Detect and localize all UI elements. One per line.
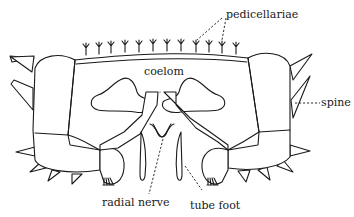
pedicellariae-label: pedicellariae (226, 9, 298, 20)
spine-label: spine (321, 97, 351, 108)
tube-feet (140, 132, 182, 180)
left-ambulacral-ossicles (33, 56, 124, 184)
right-ambulacral-ossicles (202, 53, 290, 184)
radial-nerve-label: radial nerve (102, 197, 170, 208)
tube-foot-label: tube foot (190, 200, 240, 211)
coelom-label: coelom (144, 66, 184, 77)
radial-nerve-structure (150, 124, 174, 137)
body-wall (75, 54, 248, 64)
starfish-arm-cross-section-diagram (0, 0, 354, 217)
pedicellariae-row (83, 39, 239, 55)
